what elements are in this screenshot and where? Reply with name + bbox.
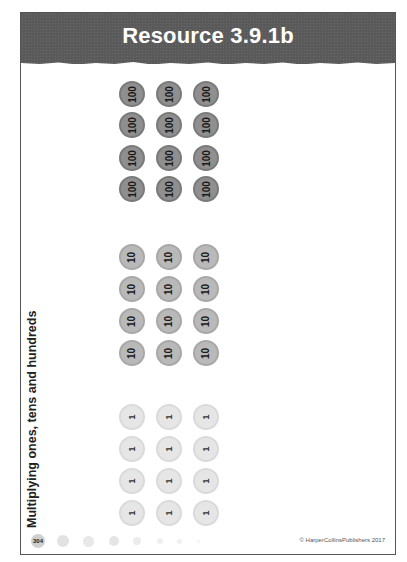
coin-label: 1 — [164, 510, 174, 515]
coin-label: 100 — [164, 181, 175, 198]
coin-label: 10 — [127, 347, 138, 358]
page-title: Resource 3.9.1b — [21, 23, 395, 49]
coin-hundreds: 100 — [119, 81, 145, 107]
coin-label: 1 — [201, 510, 211, 515]
coin-label: 100 — [127, 150, 138, 167]
resource-page: Resource 3.9.1b Multiplying ones, tens a… — [20, 12, 396, 555]
coin-tens: 10 — [193, 276, 219, 302]
coin-hundreds: 100 — [193, 112, 219, 138]
decorative-dot — [109, 536, 119, 546]
decorative-dot — [177, 539, 182, 544]
page-number: 304 — [31, 534, 45, 548]
coin-label: 100 — [127, 86, 138, 103]
coin-label: 100 — [164, 117, 175, 134]
coin-label: 10 — [164, 251, 175, 262]
coin-hundreds: 100 — [119, 145, 145, 171]
coin-ones: 1 — [119, 436, 145, 462]
coin-label: 1 — [127, 446, 137, 451]
coin-label: 10 — [127, 315, 138, 326]
coin-tens: 10 — [119, 276, 145, 302]
coin-tens: 10 — [193, 244, 219, 270]
coin-label: 100 — [164, 86, 175, 103]
coin-hundreds: 100 — [156, 81, 182, 107]
decorative-dot — [157, 538, 163, 544]
coin-tens: 10 — [119, 308, 145, 334]
coin-ones: 1 — [119, 500, 145, 526]
coin-ones: 1 — [193, 404, 219, 430]
coin-label: 10 — [164, 315, 175, 326]
coin-label: 1 — [201, 478, 211, 483]
coin-label: 1 — [127, 414, 137, 419]
coin-ones: 1 — [156, 404, 182, 430]
coin-label: 100 — [164, 150, 175, 167]
coin-label: 100 — [201, 150, 212, 167]
coin-ones: 1 — [156, 468, 182, 494]
coin-ones: 1 — [193, 436, 219, 462]
coin-ones: 1 — [119, 468, 145, 494]
coin-label: 1 — [201, 446, 211, 451]
coin-label: 1 — [201, 414, 211, 419]
coin-label: 1 — [164, 446, 174, 451]
coin-label: 10 — [127, 283, 138, 294]
decorative-dot — [83, 536, 94, 547]
coin-hundreds: 100 — [156, 176, 182, 202]
coin-label: 10 — [201, 347, 212, 358]
coin-label: 1 — [127, 510, 137, 515]
coin-label: 1 — [164, 478, 174, 483]
coin-hundreds: 100 — [156, 145, 182, 171]
coin-hundreds: 100 — [156, 112, 182, 138]
coin-ones: 1 — [193, 500, 219, 526]
decorative-dot — [133, 537, 141, 545]
coin-label: 100 — [201, 86, 212, 103]
coin-ones: 1 — [119, 404, 145, 430]
coin-tens: 10 — [193, 308, 219, 334]
coin-tens: 10 — [156, 340, 182, 366]
coin-tens: 10 — [156, 276, 182, 302]
coin-label: 100 — [201, 181, 212, 198]
coin-label: 10 — [201, 283, 212, 294]
coin-label: 100 — [127, 181, 138, 198]
coin-ones: 1 — [156, 436, 182, 462]
coin-ones: 1 — [156, 500, 182, 526]
coin-label: 100 — [201, 117, 212, 134]
coin-label: 1 — [164, 414, 174, 419]
coin-tens: 10 — [119, 244, 145, 270]
coin-tens: 10 — [156, 244, 182, 270]
header-banner: Resource 3.9.1b — [21, 13, 395, 64]
coin-hundreds: 100 — [193, 145, 219, 171]
coin-ones: 1 — [193, 468, 219, 494]
decorative-dot — [197, 540, 200, 543]
coin-label: 100 — [127, 117, 138, 134]
coin-hundreds: 100 — [119, 176, 145, 202]
copyright-notice: © HarperCollinsPublishers 2017 — [300, 537, 385, 543]
coin-hundreds: 100 — [119, 112, 145, 138]
coin-tens: 10 — [156, 308, 182, 334]
coin-tens: 10 — [193, 340, 219, 366]
coin-label: 10 — [127, 251, 138, 262]
coin-label: 10 — [164, 283, 175, 294]
coin-tens: 10 — [119, 340, 145, 366]
coin-label: 10 — [164, 347, 175, 358]
coin-hundreds: 100 — [193, 176, 219, 202]
coin-label: 10 — [201, 251, 212, 262]
decorative-dot — [57, 535, 69, 547]
coin-label: 10 — [201, 315, 212, 326]
coin-hundreds: 100 — [193, 81, 219, 107]
coin-label: 1 — [127, 478, 137, 483]
side-label: Multiplying ones, tens and hundreds — [25, 311, 39, 528]
